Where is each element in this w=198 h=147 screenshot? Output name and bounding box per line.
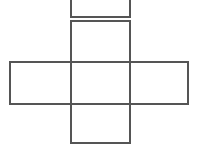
net-face-right — [130, 62, 188, 104]
net-face-upper — [71, 21, 130, 62]
net-face-left — [10, 62, 71, 104]
net-face-center — [71, 62, 130, 104]
cube-net-figure — [0, 0, 198, 147]
diagram-canvas — [0, 0, 198, 147]
net-face-top-partial — [71, 0, 130, 17]
net-face-bottom — [71, 104, 130, 143]
